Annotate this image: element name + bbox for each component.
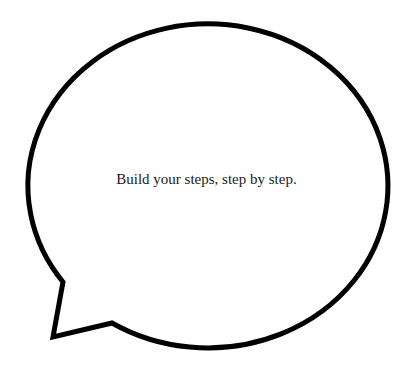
speech-bubble-diagram: Build your steps, step by step.: [0, 0, 413, 371]
speech-bubble-text: Build your steps, step by step.: [0, 170, 413, 188]
